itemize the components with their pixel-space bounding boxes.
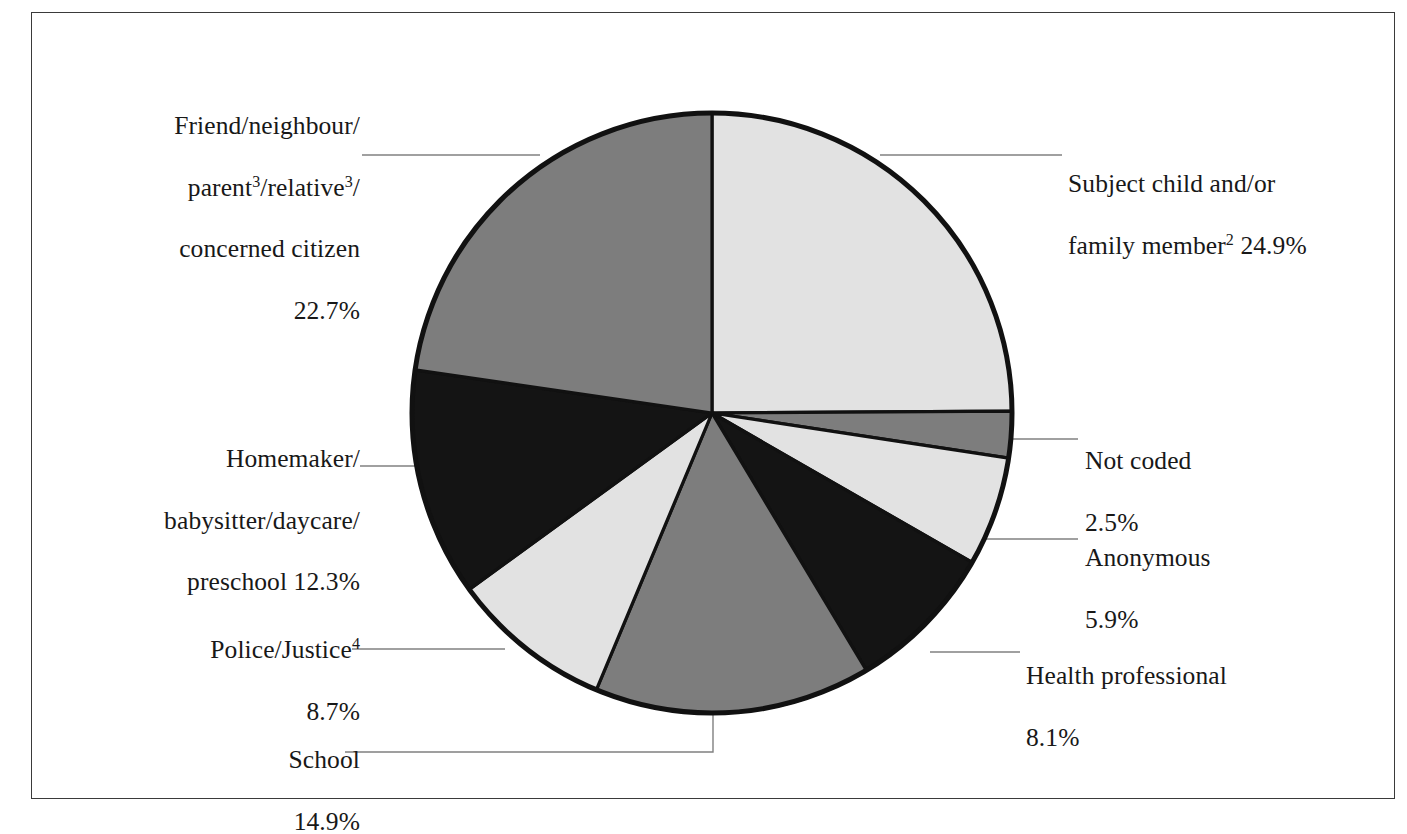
label-line: Not coded: [1085, 446, 1385, 477]
pie-slice-friend-neighbour: [415, 113, 712, 413]
label-line: Anonymous: [1085, 543, 1385, 574]
footnote-marker: 2: [1226, 230, 1234, 247]
label-percent: 8.1%: [1026, 723, 1366, 754]
slice-label-school: School 14.9%: [60, 714, 360, 834]
label-line: Friend/neighbour/: [60, 111, 360, 142]
label-line: concerned citizen: [60, 234, 360, 265]
label-line: family member2 24.9%: [1068, 231, 1398, 262]
label-percent: 14.9%: [60, 807, 360, 834]
leader-line-school: [345, 713, 713, 752]
label-percent: preschool 12.3%: [40, 567, 360, 598]
label-percent: 24.9%: [1234, 231, 1307, 260]
slice-label-homemaker: Homemaker/ babysitter/daycare/ preschool…: [40, 413, 360, 629]
label-line: babysitter/daycare/: [40, 506, 360, 537]
pie-slice-subject-child: [712, 113, 1012, 413]
label-line: Homemaker/: [40, 444, 360, 475]
label-line: Police/Justice4: [60, 635, 360, 666]
slice-label-friend-neighbour: Friend/neighbour/ parent3/relative3/ con…: [60, 80, 360, 358]
slice-label-subject-child: Subject child and/or family member2 24.9…: [1068, 138, 1398, 292]
footnote-marker: 4: [352, 634, 360, 651]
footnote-marker: 3: [345, 172, 353, 189]
slice-label-health-professional: Health professional 8.1%: [1026, 630, 1366, 784]
label-line: School: [60, 745, 360, 776]
label-line: Subject child and/or: [1068, 169, 1398, 200]
label-line: parent3/relative3/: [60, 173, 360, 204]
label-line: Health professional: [1026, 661, 1366, 692]
label-percent: 22.7%: [60, 296, 360, 327]
pie-slices-group: [412, 113, 1012, 713]
